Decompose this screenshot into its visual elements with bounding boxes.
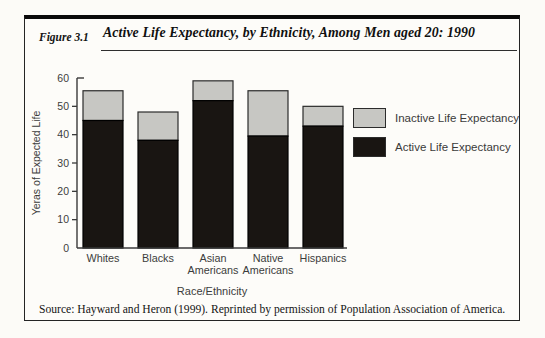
- title-rule: [101, 50, 517, 51]
- svg-text:Yeras of Expected Life: Yeras of Expected Life: [30, 111, 42, 216]
- svg-text:Americans: Americans: [242, 264, 294, 276]
- source-note: Source: Hayward and Heron (1999). Reprin…: [39, 303, 505, 316]
- legend: Inactive Life Expectancy Active Life Exp…: [353, 108, 519, 166]
- figure-title: Active Life Expectancy, by Ethnicity, Am…: [103, 25, 475, 41]
- svg-text:40: 40: [57, 128, 69, 140]
- svg-text:Asian: Asian: [199, 252, 226, 264]
- svg-text:10: 10: [57, 213, 69, 225]
- inactive-swatch-icon: [353, 108, 386, 128]
- active-swatch-icon: [353, 137, 386, 157]
- svg-text:Whites: Whites: [87, 252, 121, 264]
- figure-box: Figure 3.1 Active Life Expectancy, by Et…: [24, 15, 520, 321]
- svg-text:Race/Ethnicity: Race/Ethnicity: [177, 285, 248, 297]
- svg-text:Americans: Americans: [187, 264, 239, 276]
- legend-label-active: Active Life Expectancy: [395, 141, 511, 153]
- legend-item-active: Active Life Expectancy: [353, 137, 519, 157]
- svg-text:Blacks: Blacks: [142, 252, 174, 264]
- svg-text:Hispanics: Hispanics: [300, 252, 347, 264]
- figure-label: Figure 3.1: [39, 31, 89, 43]
- svg-text:50: 50: [57, 100, 69, 112]
- svg-text:0: 0: [63, 242, 69, 254]
- svg-text:60: 60: [57, 72, 69, 84]
- bar-chart: 0102030405060WhitesBlacksAsianAmericansN…: [25, 63, 355, 307]
- legend-label-inactive: Inactive Life Expectancy: [395, 112, 519, 124]
- svg-text:30: 30: [57, 157, 69, 169]
- legend-item-inactive: Inactive Life Expectancy: [353, 108, 519, 128]
- svg-text:20: 20: [57, 185, 69, 197]
- svg-text:Native: Native: [253, 252, 284, 264]
